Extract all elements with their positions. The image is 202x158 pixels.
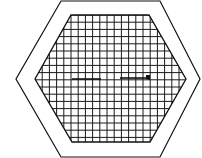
- outer-hexagon: [16, 1, 200, 157]
- grid-pattern: [35, 15, 186, 142]
- center-segments: [72, 75, 150, 80]
- arrowhead-icon: [146, 75, 150, 80]
- hexagon-grid-diagram: [0, 0, 202, 158]
- diagram-canvas: [0, 0, 202, 158]
